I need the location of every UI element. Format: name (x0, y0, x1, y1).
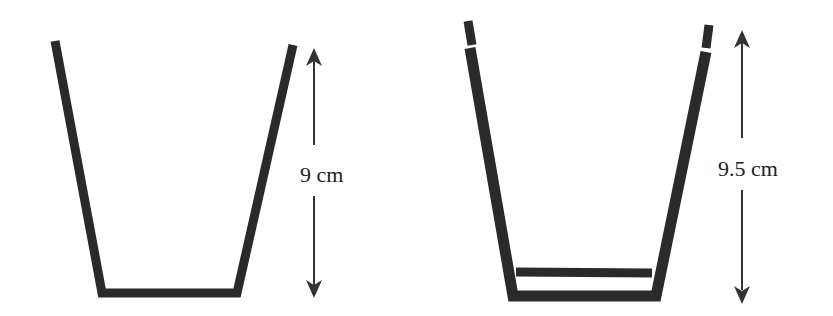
height-dimension-9cm: 9 cm (300, 48, 343, 298)
diagram-canvas: 9 cm 9.5 cm (0, 0, 833, 316)
cup-outline (55, 41, 293, 293)
height-label: 9 cm (300, 162, 343, 187)
stacked-cups (468, 21, 709, 296)
outer-cup-outline-top-right (706, 25, 709, 48)
cup-body-outline (470, 48, 706, 296)
height-dimension-9-5cm: 9.5 cm (718, 30, 778, 304)
inner-cup-bottom (516, 272, 652, 273)
outer-cup-outline (468, 21, 472, 45)
height-label: 9.5 cm (718, 156, 778, 181)
single-cup (55, 41, 293, 293)
